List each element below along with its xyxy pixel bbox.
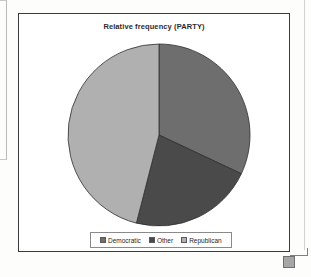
legend-label-democratic: Democratic bbox=[108, 237, 141, 244]
legend-item-democratic[interactable]: Democratic bbox=[100, 237, 141, 244]
page-edge-left-artifact bbox=[0, 0, 7, 160]
pie-chart-plot-area bbox=[67, 43, 251, 227]
legend-swatch-republican-icon bbox=[181, 237, 187, 243]
legend-label-republican: Republican bbox=[189, 237, 222, 244]
legend-swatch-democratic-icon bbox=[100, 237, 106, 243]
pie-chart-svg bbox=[67, 43, 251, 227]
chart-legend: Democratic Other Republican bbox=[90, 232, 232, 248]
legend-item-other[interactable]: Other bbox=[149, 237, 173, 244]
resize-handle[interactable] bbox=[283, 256, 295, 268]
chart-title: Relative frequency (PARTY) bbox=[19, 22, 289, 31]
legend-item-republican[interactable]: Republican bbox=[181, 237, 222, 244]
chart-object-frame[interactable]: Relative frequency (PARTY) Democratic Ot… bbox=[18, 13, 290, 252]
page-edge-right-artifact bbox=[304, 0, 305, 250]
legend-swatch-other-icon bbox=[149, 237, 155, 243]
legend-label-other: Other bbox=[157, 237, 173, 244]
